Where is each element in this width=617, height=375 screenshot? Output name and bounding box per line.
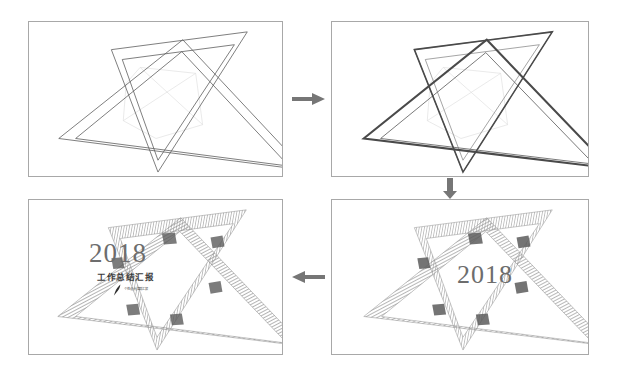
- arrow-right-top: [292, 90, 326, 112]
- arrow-left-icon: [292, 268, 326, 286]
- triangle-up-thin: [59, 40, 282, 170]
- star-diagram-final: [29, 200, 282, 354]
- panel-step-1[interactable]: [28, 21, 283, 177]
- arrow-left-bottom: [292, 268, 326, 290]
- arrow-right-icon: [292, 90, 326, 108]
- panel-step-2[interactable]: [331, 21, 589, 177]
- triangle-down-band: [414, 210, 552, 350]
- triangle-down-band: [108, 210, 246, 350]
- triangle-down-thin: [111, 32, 247, 172]
- arrow-down-icon: [441, 178, 459, 200]
- triangle-up-bold: [364, 40, 588, 168]
- panel-step-4[interactable]: 2018 工作总结汇报 个性设计|高端汇报: [28, 199, 283, 355]
- triangle-up-bold-inner: [381, 53, 588, 165]
- arrow-down-right: [441, 178, 459, 204]
- star-diagram-hatched-year: [332, 200, 588, 354]
- diagram-canvas: 2018: [0, 0, 617, 375]
- panel-step-3[interactable]: 2018: [331, 199, 589, 355]
- star-diagram-bold: [332, 22, 588, 176]
- star-diagram-thin: [29, 22, 282, 176]
